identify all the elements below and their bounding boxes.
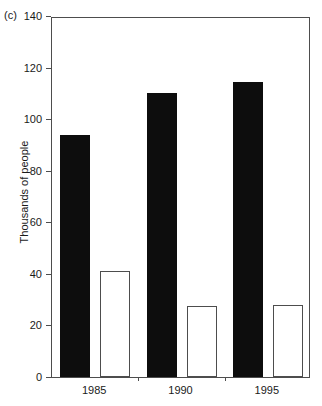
y-tick-label: 100 (24, 113, 42, 125)
bar-1990-filled (147, 93, 177, 377)
panel-label: (c) (4, 9, 17, 21)
bar-1985-open (100, 271, 130, 377)
y-tick-label: 0 (36, 371, 42, 383)
bar-1995-filled (233, 82, 263, 377)
y-tick-label: 80 (30, 165, 42, 177)
figure-panel-c: (c) Thousands of people 0204060801001201… (0, 0, 322, 406)
x-tick-label-1985: 1985 (82, 384, 106, 396)
x-tick-label-1995: 1995 (255, 384, 279, 396)
y-tick-label: 120 (24, 62, 42, 74)
bar-1995-open (273, 305, 303, 377)
x-axis-tick (138, 377, 139, 381)
x-axis-tick (225, 377, 226, 381)
y-tick-label: 40 (30, 268, 42, 280)
bar-1990-open (187, 306, 217, 377)
plot-area (51, 17, 310, 378)
y-axis-title: Thousands of people (18, 112, 30, 272)
x-tick-label-1990: 1990 (168, 384, 192, 396)
bars-layer (52, 18, 309, 377)
y-tick-label: 60 (30, 216, 42, 228)
y-tick-label: 20 (30, 319, 42, 331)
bar-1985-filled (60, 135, 90, 377)
y-tick-label: 140 (24, 10, 42, 22)
